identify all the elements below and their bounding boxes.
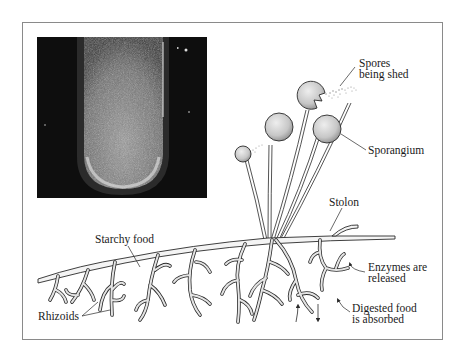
spores-leader — [340, 67, 355, 86]
rhizoids-leader-1 — [82, 302, 98, 316]
label-rhizoids: Rhizoids — [38, 311, 79, 322]
label-enzymes-released: Enzymes are released — [368, 262, 427, 284]
sporangia — [235, 81, 341, 162]
arrow-up-icon — [296, 306, 298, 322]
sporangium — [313, 115, 341, 143]
label-sporangium: Sporangium — [368, 145, 424, 156]
bursting-sporangium — [297, 81, 325, 109]
label-starchy-food: Starchy food — [95, 234, 154, 245]
small-sporangium — [235, 146, 251, 162]
stolon-leader — [330, 208, 342, 231]
label-digested-food-absorbed: Digested food is absorbed — [352, 303, 417, 325]
rhizoids-leader-2 — [82, 310, 110, 316]
label-spores-being-shed: Spores being shed — [359, 58, 409, 80]
label-stolon: Stolon — [329, 197, 359, 208]
sporangium — [265, 113, 293, 141]
rhizoids — [50, 240, 348, 322]
sporangium-leader — [341, 134, 366, 150]
digested-leader — [338, 300, 350, 312]
enzymes-leader — [350, 264, 365, 272]
